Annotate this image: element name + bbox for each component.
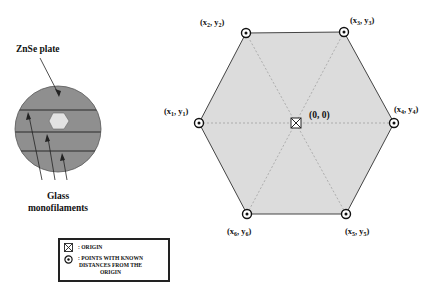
vertex-label-p3: (x3, y3) xyxy=(350,15,375,26)
filament-label-line1: Glass xyxy=(47,191,69,201)
vertex-label-p2: (x2, y2) xyxy=(200,17,225,28)
legend-points-line2: DISTANCES FROM THE xyxy=(78,262,143,269)
znse-plate-figure: ZnSe plate Glass monofilaments xyxy=(10,44,110,213)
vertex-marker-p6-icon xyxy=(243,210,252,219)
plate-label: ZnSe plate xyxy=(16,44,60,54)
vertex-marker-p5-icon xyxy=(342,210,351,219)
boxed-x-icon xyxy=(64,243,74,252)
circled-dot-icon xyxy=(64,255,74,264)
legend-row-points: : POINTS WITH KNOWN DISTANCES FROM THE O… xyxy=(64,255,143,276)
vertex-marker-p2-icon xyxy=(242,29,251,38)
vertex-marker-p1-icon xyxy=(195,119,204,128)
vertex-label-p4: (x4, y4) xyxy=(394,104,419,115)
filament-label-line2: monofilaments xyxy=(28,203,88,213)
legend-row-origin: : ORIGIN xyxy=(64,243,102,252)
vertex-label-p5: (x5, y5) xyxy=(345,226,370,237)
legend-points-line1: : POINTS WITH KNOWN xyxy=(78,255,143,262)
vertex-marker-p3-icon xyxy=(340,28,349,37)
legend-box: : ORIGIN : POINTS WITH KNOWN DISTANCES F… xyxy=(58,238,170,282)
origin-label: (0, 0) xyxy=(309,110,330,121)
hexagon-figure: (0, 0) (x1, y1) (x2, y2) (x3, y3) (x4, y… xyxy=(164,15,419,237)
origin-marker-icon xyxy=(291,118,301,128)
vertex-marker-p4-icon xyxy=(390,119,399,128)
vertex-label-p6: (x6, y6) xyxy=(227,226,252,237)
legend-origin-text: : ORIGIN xyxy=(78,243,102,252)
legend-points-line3: ORIGIN xyxy=(78,269,143,276)
vertex-label-p1: (x1, y1) xyxy=(164,106,189,117)
legend-points-text: : POINTS WITH KNOWN DISTANCES FROM THE O… xyxy=(78,255,143,276)
